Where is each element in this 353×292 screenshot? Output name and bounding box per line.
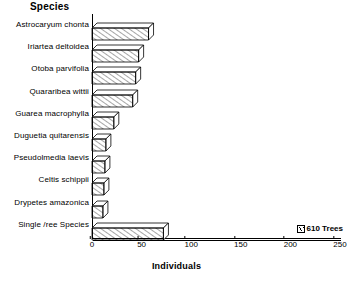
bar-row: Duguetia quitarensis	[0, 127, 353, 151]
x-tick-mark	[284, 236, 285, 239]
bar-3d-shape	[92, 223, 170, 241]
x-axis-ticks: 050100150200250	[0, 240, 353, 254]
x-tick-label: 200	[284, 240, 297, 249]
bar-row: Quararibea wittii	[0, 83, 353, 107]
bar-category-label: Iriartea deltoidea	[28, 42, 89, 51]
bar-row: Pseudolmedia laevis	[0, 149, 353, 173]
bar-row: Iriartea deltoidea	[0, 38, 353, 62]
bar-row: Astrocaryum chonta	[0, 16, 353, 40]
x-tick-mark	[137, 236, 138, 239]
bar[interactable]	[92, 178, 104, 191]
x-tick-label: 150	[234, 240, 247, 249]
bar-category-label: Duguetia quitarensis	[14, 131, 89, 140]
bar-category-label: Guarea macrophylla	[15, 109, 89, 118]
bar-category-label: Quararibea wittii	[29, 87, 89, 96]
bar-category-label: Pseudolmedia laevis	[14, 153, 89, 162]
bar[interactable]	[92, 134, 106, 147]
x-tick-mark	[90, 236, 91, 239]
bar[interactable]	[92, 90, 133, 103]
hatched-swatch-icon	[297, 225, 305, 233]
bar[interactable]	[92, 67, 136, 80]
x-tick-mark	[185, 236, 186, 239]
legend: 610 Trees	[297, 224, 343, 233]
bar-category-label: Single /ree Species	[18, 220, 89, 229]
bar-category-label: Celtis schippii	[39, 175, 89, 184]
bar[interactable]	[92, 223, 163, 236]
bar[interactable]	[92, 156, 105, 169]
bar-category-label: Otoba parvifolia	[31, 64, 89, 73]
plot-area: Astrocaryum chontaIriartea deltoideaOtob…	[0, 14, 353, 238]
bar-row: Drypetes amazonica	[0, 194, 353, 218]
bar-row: Guarea macrophylla	[0, 105, 353, 129]
x-tick-label: 250	[333, 240, 346, 249]
x-axis-title: Individuals	[0, 261, 353, 271]
x-tick-mark	[234, 236, 235, 239]
bar[interactable]	[92, 112, 114, 125]
x-tick-mark	[333, 236, 334, 239]
bar-category-label: Astrocaryum chonta	[16, 20, 89, 29]
bar-row: Otoba parvifolia	[0, 60, 353, 84]
bar[interactable]	[92, 201, 103, 214]
x-tick-label: 0	[90, 240, 94, 249]
x-tick-label: 50	[137, 240, 146, 249]
bar[interactable]	[92, 23, 149, 36]
bar-chart: Species Astrocaryum chontaIriartea delto…	[0, 0, 353, 292]
x-tick-label: 100	[185, 240, 198, 249]
legend-label: 610 Trees	[307, 224, 343, 233]
bar-row: Celtis schippii	[0, 171, 353, 195]
bar[interactable]	[92, 45, 139, 58]
bar-category-label: Drypetes amazonica	[14, 198, 89, 207]
species-axis-title: Species	[30, 1, 69, 12]
